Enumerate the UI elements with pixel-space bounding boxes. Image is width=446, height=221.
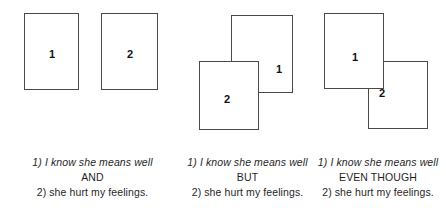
clause-box-label-1: 1 [276,64,282,75]
caption-connector: BUT [185,170,310,185]
box-diagram-even-though: 2 1 [310,0,446,150]
caption-first-clause: 1) I know she means well [310,155,446,170]
caption-connector: AND [0,170,185,185]
caption-even-though: 1) I know she means well EVEN THOUGH 2) … [310,155,446,200]
caption-second-clause: 2) she hurt my feelings. [0,185,185,200]
clause-box-label-2: 2 [224,94,230,105]
clause-box-label-1: 1 [49,49,55,60]
clause-box-1: 1 [324,13,384,89]
clause-box-label-1: 1 [352,52,358,63]
diagram-group-and: 1 2 1) I know she means well AND 2) she … [0,0,185,221]
caption-second-clause: 2) she hurt my feelings. [185,185,310,200]
clause-box-2: 2 [101,13,158,90]
clause-box-label-2: 2 [379,88,385,99]
box-diagram-but: 1 2 [185,0,310,150]
clause-box-label-2: 2 [127,49,133,60]
clause-box-1: 1 [24,13,79,90]
conjunction-diagram-figure: 1 2 1) I know she means well AND 2) she … [0,0,446,221]
diagram-group-but: 1 2 1) I know she means well BUT 2) she … [185,0,310,221]
clause-box-2: 2 [199,61,259,130]
caption-second-clause: 2) she hurt my feelings. [310,185,446,200]
caption-first-clause: 1) I know she means well [185,155,310,170]
caption-connector: EVEN THOUGH [310,170,446,185]
caption-first-clause: 1) I know she means well [0,155,185,170]
caption-and: 1) I know she means well AND 2) she hurt… [0,155,185,200]
diagram-group-even-though: 2 1 1) I know she means well EVEN THOUGH… [310,0,446,221]
box-diagram-and: 1 2 [0,0,185,150]
caption-but: 1) I know she means well BUT 2) she hurt… [185,155,310,200]
